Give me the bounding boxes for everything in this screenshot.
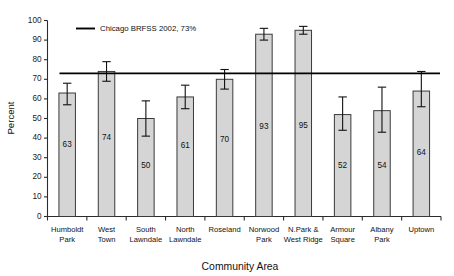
svg-text:Park: Park — [256, 235, 272, 244]
svg-text:Humboldt: Humboldt — [51, 225, 84, 234]
bar-value-label-3: 50 — [141, 161, 151, 170]
bar-value-label-1: 63 — [63, 140, 73, 149]
category-label-2: WestTown — [98, 225, 116, 244]
bar-value-label-4: 61 — [181, 141, 191, 150]
y-tick-label: 90 — [32, 35, 42, 44]
svg-text:N.Park &: N.Park & — [288, 225, 318, 234]
svg-text:West Ridge: West Ridge — [284, 235, 323, 244]
chart-canvas: 0102030405060708090100 63745061709395525… — [0, 0, 454, 276]
category-label-7: N.Park &West Ridge — [284, 225, 323, 244]
y-tick-label: 60 — [32, 94, 42, 103]
svg-text:Uptown: Uptown — [408, 225, 434, 234]
bar-5 — [216, 79, 233, 216]
svg-text:Square: Square — [330, 235, 355, 244]
y-axis-title: Percent — [5, 101, 16, 134]
y-tick-label: 100 — [28, 16, 42, 25]
svg-text:Albany: Albany — [370, 225, 393, 234]
y-tick-label: 80 — [32, 55, 42, 64]
svg-text:Roseland: Roseland — [209, 225, 241, 234]
bar-1 — [59, 93, 76, 216]
y-tick-label: 70 — [32, 74, 42, 83]
y-tick-label: 20 — [32, 172, 42, 181]
svg-text:West: West — [98, 225, 116, 234]
svg-text:North: North — [176, 225, 195, 234]
category-label-10: Uptown — [408, 225, 434, 234]
svg-text:Lawndale: Lawndale — [169, 235, 202, 244]
x-axis-title: Community Area — [202, 261, 279, 272]
bar-value-label-2: 74 — [102, 133, 112, 142]
bar-value-label-9: 54 — [377, 161, 387, 170]
svg-text:Lawndale: Lawndale — [130, 235, 163, 244]
bar-value-label-5: 70 — [220, 135, 230, 144]
y-tick-label: 30 — [32, 153, 42, 162]
y-tick-label: 50 — [32, 114, 42, 123]
category-label-5: Roseland — [209, 225, 241, 234]
bar-value-label-10: 64 — [417, 148, 427, 157]
svg-text:Park: Park — [59, 235, 75, 244]
category-label-8: ArmourSquare — [330, 225, 355, 244]
bar-chart-figure: 0102030405060708090100 63745061709395525… — [0, 0, 454, 276]
y-tick-label: 10 — [32, 192, 42, 201]
y-tick-label: 0 — [37, 212, 42, 221]
svg-text:Town: Town — [98, 235, 116, 244]
svg-text:Norwood: Norwood — [249, 225, 279, 234]
svg-text:Park: Park — [374, 235, 390, 244]
svg-text:Armour: Armour — [330, 225, 355, 234]
y-tick-label: 40 — [32, 133, 42, 142]
bar-4 — [177, 97, 194, 217]
svg-text:South: South — [136, 225, 156, 234]
bar-value-label-8: 52 — [338, 161, 348, 170]
legend-label: Chicago BRFSS 2002, 73% — [100, 24, 196, 33]
bar-value-label-7: 95 — [299, 121, 309, 130]
bar-value-label-6: 93 — [259, 122, 269, 131]
bar-2 — [98, 71, 115, 216]
